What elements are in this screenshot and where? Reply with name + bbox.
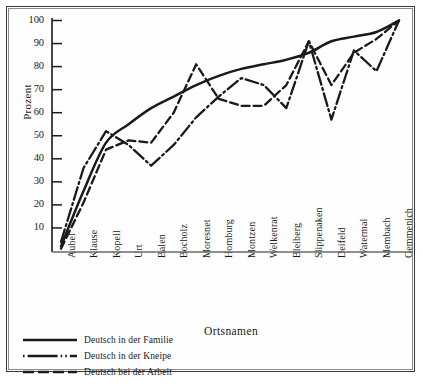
legend-label-kneipe: Deutsch in der Kneipe [84,351,171,361]
series-line-deutsch-in-der-kneipe [61,21,399,242]
y-axis-tick-marks [52,21,62,228]
legend: Deutsch in der Familie Deutsch in der Kn… [22,332,252,380]
y-axis [52,18,62,252]
legend-label-familie: Deutsch in der Familie [84,335,173,345]
legend-key-dash-dot [22,350,78,362]
plot-area [0,0,423,387]
legend-key-solid [22,334,78,346]
legend-key-dashed [22,366,78,378]
legend-label-arbeit: Deutsch bei der Arbeit [84,367,172,377]
figure: Prozent Ortsnamen 100 90 80 70 60 50 40 … [0,0,423,387]
legend-item-arbeit: Deutsch bei der Arbeit [22,364,252,380]
legend-item-kneipe: Deutsch in der Kneipe [22,348,252,364]
legend-item-familie: Deutsch in der Familie [22,332,252,348]
data-series-group [61,21,399,249]
